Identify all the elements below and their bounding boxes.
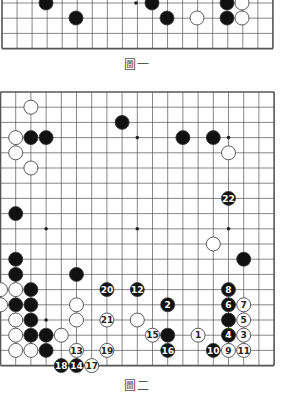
star-point: [227, 227, 231, 231]
svg-text:3: 3: [241, 330, 247, 340]
svg-text:5: 5: [241, 315, 247, 325]
white-stone: [24, 343, 38, 357]
white-stone: [9, 313, 23, 327]
black-stone: [39, 328, 53, 342]
svg-text:21: 21: [101, 315, 114, 325]
star-point: [44, 227, 48, 231]
black-stone: [220, 0, 234, 10]
black-stone: 18: [54, 359, 68, 373]
black-stone: 22: [222, 191, 236, 205]
white-stone: [222, 146, 236, 160]
white-stone: 5: [237, 313, 251, 327]
black-stone: [220, 11, 234, 25]
svg-text:16: 16: [161, 346, 174, 356]
star-point: [134, 1, 138, 5]
star-point: [227, 136, 231, 140]
white-stone: 9: [222, 343, 236, 357]
black-stone: [9, 207, 23, 221]
star-point: [44, 318, 48, 322]
svg-text:8: 8: [225, 285, 231, 295]
svg-text:14: 14: [70, 361, 83, 371]
svg-text:6: 6: [225, 300, 231, 310]
white-stone: 21: [100, 313, 114, 327]
svg-text:18: 18: [55, 361, 68, 371]
white-stone: 17: [85, 359, 99, 373]
white-stone: [235, 0, 249, 10]
black-stone: [206, 131, 220, 145]
white-stone: [190, 11, 204, 25]
white-stone: [70, 313, 84, 327]
svg-text:7: 7: [241, 300, 247, 310]
black-stone: [70, 267, 84, 281]
white-stone: [9, 343, 23, 357]
black-stone: [69, 11, 83, 25]
svg-text:13: 13: [70, 346, 83, 356]
black-stone: [9, 267, 23, 281]
white-stone: [9, 328, 23, 342]
black-stone: 4: [222, 328, 236, 342]
white-stone: [235, 11, 249, 25]
black-stone: 14: [70, 359, 84, 373]
black-stone: 16: [161, 343, 175, 357]
white-stone: 19: [100, 343, 114, 357]
white-stone: [9, 283, 23, 297]
white-stone: 13: [70, 343, 84, 357]
black-stone: [24, 313, 38, 327]
white-stone: [0, 283, 8, 297]
black-stone: 6: [222, 298, 236, 312]
svg-text:20: 20: [101, 285, 114, 295]
black-stone: [24, 131, 38, 145]
svg-text:15: 15: [146, 330, 159, 340]
white-stone: [24, 161, 38, 175]
black-stone: [24, 298, 38, 312]
black-stone: [24, 328, 38, 342]
star-point: [136, 136, 140, 140]
black-stone: 20: [100, 283, 114, 297]
svg-text:12: 12: [131, 285, 144, 295]
black-stone: [39, 0, 53, 10]
white-stone: [130, 313, 144, 327]
black-stone: 10: [206, 343, 220, 357]
white-stone: [24, 100, 38, 114]
figure1-caption: 圖一: [124, 55, 150, 72]
svg-text:1: 1: [195, 330, 201, 340]
black-stone: [237, 252, 251, 266]
white-stone: [0, 298, 8, 312]
black-stone: [176, 131, 190, 145]
black-stone: [39, 131, 53, 145]
black-stone: [39, 343, 53, 357]
black-stone: [9, 298, 23, 312]
figure2-board: 24681012141618202213579111315171921: [0, 92, 274, 373]
figure2-caption: 圖二: [124, 376, 150, 393]
white-stone: 11: [237, 343, 251, 357]
black-stone: [9, 252, 23, 266]
black-stone: [160, 11, 174, 25]
svg-text:10: 10: [207, 346, 220, 356]
white-stone: [70, 298, 84, 312]
white-stone: [9, 131, 23, 145]
svg-text:4: 4: [225, 330, 231, 340]
svg-text:17: 17: [85, 361, 98, 371]
black-stone: 12: [130, 283, 144, 297]
white-stone: 1: [191, 328, 205, 342]
svg-text:22: 22: [222, 194, 235, 204]
black-stone: [24, 283, 38, 297]
svg-text:9: 9: [225, 346, 231, 356]
black-stone: [115, 115, 129, 129]
black-stone: [161, 328, 175, 342]
white-stone: 15: [146, 328, 160, 342]
white-stone: [54, 328, 68, 342]
svg-text:2: 2: [165, 300, 171, 310]
svg-text:11: 11: [237, 346, 250, 356]
white-stone: [9, 146, 23, 160]
white-stone: 7: [237, 298, 251, 312]
svg-text:19: 19: [101, 346, 114, 356]
black-stone: [145, 0, 159, 10]
white-stone: [206, 237, 220, 251]
figure1-board: [2, 0, 273, 49]
black-stone: 2: [161, 298, 175, 312]
black-stone: [222, 313, 236, 327]
star-point: [136, 227, 140, 231]
black-stone: 8: [222, 283, 236, 297]
white-stone: 3: [237, 328, 251, 342]
